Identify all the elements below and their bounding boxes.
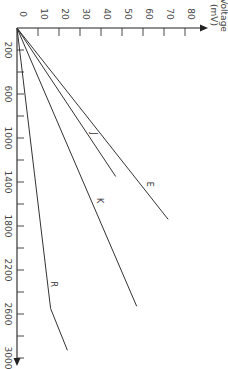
- voltage-tick-label: 50: [123, 8, 133, 20]
- temperature-axis-arrow-icon: [14, 358, 21, 366]
- voltage-tick-label: 40: [102, 8, 112, 20]
- temperature-tick-label: 2600: [3, 303, 13, 326]
- voltage-tick-label: 20: [60, 8, 70, 20]
- curves: [17, 28, 168, 350]
- temperature-tick-label: 1000: [3, 127, 13, 150]
- voltage-axis-arrow-icon: [200, 25, 208, 32]
- temperature-tick-label: 600: [3, 85, 13, 102]
- thermocouple-chart: 01020304050607080Voltage(mV)200600100014…: [0, 0, 228, 369]
- curve-label-e: E: [145, 182, 154, 187]
- curve-k: [17, 28, 137, 306]
- curve-label-k: K: [95, 198, 104, 204]
- voltage-tick-label: 70: [165, 8, 175, 20]
- voltage-tick-label: 60: [144, 8, 154, 20]
- voltage-tick-label: 10: [39, 8, 49, 20]
- voltage-axis-title: Voltage: [219, 0, 228, 32]
- voltage-tick-label: 30: [81, 8, 91, 20]
- labels: 01020304050607080Voltage(mV)200600100014…: [3, 0, 228, 369]
- voltage-tick-label: 0: [18, 11, 28, 17]
- temperature-tick-label: 3000: [3, 347, 13, 369]
- temperature-tick-label: 2200: [3, 259, 13, 282]
- temperature-tick-label: 1800: [3, 215, 13, 238]
- voltage-axis-unit: (mV): [209, 4, 219, 26]
- curve-label-r: R: [49, 282, 58, 288]
- curve-label-j: J: [89, 131, 98, 134]
- axes: [14, 25, 209, 367]
- temperature-tick-label: 200: [3, 41, 13, 58]
- curve-e: [17, 28, 168, 219]
- curve-r: [17, 28, 67, 350]
- voltage-tick-label: 80: [186, 8, 196, 20]
- axis-ticks: [17, 28, 185, 358]
- temperature-tick-label: 1400: [3, 171, 13, 194]
